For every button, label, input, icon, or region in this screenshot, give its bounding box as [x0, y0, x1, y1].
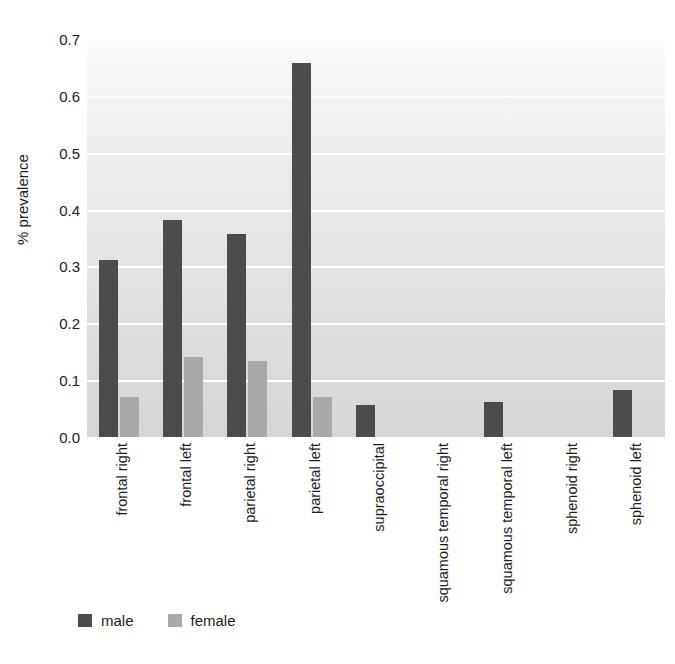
- y-tick-label: 0.0: [36, 430, 80, 445]
- bar-group: [356, 39, 408, 437]
- x-tick-label: parietal left: [308, 443, 323, 514]
- bar-group: [613, 39, 665, 437]
- x-axis-tick-labels: frontal rightfrontal leftparietal rightp…: [87, 437, 665, 612]
- bar-group: [420, 39, 472, 437]
- legend-swatch-female: [168, 614, 182, 627]
- y-axis-title: % prevalence: [15, 140, 30, 260]
- x-tick-label: squamous temporal left: [500, 443, 515, 594]
- bar-male: [613, 390, 632, 437]
- bar-female: [120, 397, 139, 437]
- bar-male: [99, 260, 118, 437]
- x-tick-label: squamous temporal right: [436, 443, 451, 603]
- y-tick-label: 0.5: [36, 145, 80, 160]
- legend-label: male: [101, 613, 134, 628]
- legend-entry: female: [168, 613, 236, 628]
- bar-female: [313, 397, 332, 437]
- bars-layer: [87, 39, 665, 437]
- bar-chart-figure: % prevalence 0.00.10.20.30.40.50.60.7 fr…: [0, 0, 675, 664]
- x-tick-label: frontal left: [179, 443, 194, 507]
- bar-group: [163, 39, 215, 437]
- bar-group: [549, 39, 601, 437]
- y-tick-label: 0.4: [36, 202, 80, 217]
- legend-label: female: [191, 613, 236, 628]
- bar-female: [184, 357, 203, 437]
- x-tick-label: frontal right: [115, 443, 130, 516]
- bar-female: [248, 361, 267, 437]
- bar-male: [356, 405, 375, 437]
- x-tick-label: supraoccipital: [372, 443, 387, 532]
- bar-group: [99, 39, 151, 437]
- x-tick-label: sphenoid right: [565, 443, 580, 534]
- x-tick-label: parietal right: [243, 443, 258, 523]
- y-tick-label: 0.1: [36, 373, 80, 388]
- bar-male: [163, 220, 182, 437]
- y-tick-label: 0.2: [36, 316, 80, 331]
- bar-group: [484, 39, 536, 437]
- bar-group: [227, 39, 279, 437]
- legend-entry: male: [78, 613, 134, 628]
- bar-male: [484, 402, 503, 437]
- chart-legend: malefemale: [78, 613, 236, 628]
- y-tick-label: 0.7: [36, 32, 80, 47]
- y-tick-label: 0.6: [36, 88, 80, 103]
- y-axis-tick-labels: 0.00.10.20.30.40.50.60.7: [36, 0, 80, 664]
- bar-male: [292, 63, 311, 437]
- y-tick-label: 0.3: [36, 259, 80, 274]
- bar-male: [227, 234, 246, 437]
- x-tick-label: sphenoid left: [629, 443, 644, 525]
- legend-swatch-male: [78, 614, 92, 627]
- bar-group: [292, 39, 344, 437]
- plot-area: [87, 39, 665, 437]
